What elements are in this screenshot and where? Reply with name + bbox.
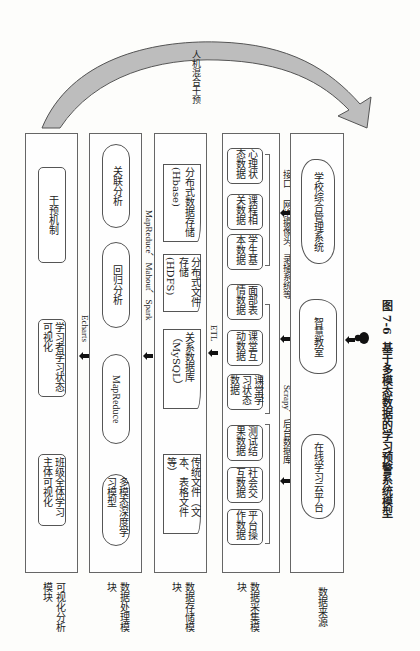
psych-state-box: 心理状态数据 bbox=[227, 148, 263, 184]
arrow-echarts bbox=[79, 353, 89, 359]
layer-label-processing: 数据处理模块 bbox=[102, 582, 130, 632]
layer-label-source: 数据来源 bbox=[300, 582, 328, 632]
arrow-scrapy bbox=[280, 478, 290, 484]
figure-number: 图 7-6 bbox=[380, 300, 393, 335]
layer-collection: 平台操作数据 社会交互数据 测试结果数据 课堂学习状态数据 课堂互动数据 面部表… bbox=[222, 133, 280, 573]
layer-storage: 传统文件（文本、表格文件等） 关系数据库（MySQL） 分布式文件存储(HDFS… bbox=[154, 133, 207, 573]
bracket-platform-group bbox=[265, 424, 270, 544]
learner-visualization-box: 学习者学习状态可视化 bbox=[38, 319, 66, 397]
classroom-interaction-box: 课堂互动数据 bbox=[227, 330, 263, 366]
hbase-doc: 分布式数据存储(Hbase) bbox=[163, 164, 201, 242]
social-interaction-box: 社会交互数据 bbox=[227, 467, 263, 503]
bracket-classroom-group bbox=[265, 304, 270, 414]
layer-label-visualization: 可视化分析模块 bbox=[38, 582, 66, 632]
feedback-arrow-label: 人机混合干预 bbox=[190, 50, 203, 104]
arrow-interface bbox=[280, 210, 290, 216]
bracket-system-group bbox=[265, 154, 270, 266]
traditional-files-doc: 传统文件（文本、表格文件等） bbox=[163, 454, 201, 534]
layer-label-collection: 数据采集模块 bbox=[232, 582, 260, 632]
school-management-system: 学校综合管理系统 bbox=[301, 159, 335, 264]
connector-etl: ETL bbox=[209, 325, 219, 342]
intervention-box: 干预机制 bbox=[38, 167, 66, 263]
facial-expression-box: 面部表情数据 bbox=[227, 284, 263, 320]
regression-pill: 回归分析 bbox=[102, 242, 130, 328]
test-result-box: 测试结果数据 bbox=[227, 425, 263, 461]
mapreduce-pill: MapReduce bbox=[102, 354, 130, 444]
arrow-mapreduce bbox=[143, 353, 153, 359]
feedback-arrow bbox=[0, 0, 420, 140]
mysql-doc: 关系数据库（MySQL） bbox=[163, 329, 201, 409]
course-related-box: 课程相关数据 bbox=[227, 194, 263, 230]
layer-source: 在线学习云平台 智慧教室 学校综合管理系统 bbox=[290, 133, 344, 573]
student-basic-box: 学生基本数据 bbox=[227, 234, 263, 270]
smart-classroom: 智慧教室 bbox=[299, 299, 337, 374]
layer-visualization: 班级全体学习主体可视化 学习者学习状态可视化 干预机制 bbox=[25, 133, 78, 573]
figure-title: 基于多模态数据的学习预警系统模型 bbox=[380, 342, 393, 518]
layer-label-storage: 数据存储模块 bbox=[167, 582, 195, 632]
association-pill: 关联分析 bbox=[102, 144, 130, 228]
arrow-webcam bbox=[280, 336, 290, 342]
class-visualization-box: 班级全体学习主体可视化 bbox=[38, 454, 66, 526]
platform-operation-box: 平台操作数据 bbox=[227, 509, 263, 545]
arrow-etl bbox=[208, 350, 218, 356]
layer-processing: 多模态深度学习模型 MapReduce 回归分析 关联分析 bbox=[89, 133, 142, 573]
classroom-state-box: 课堂学习状态数据 bbox=[227, 374, 263, 410]
online-cloud-platform: 在线学习云平台 bbox=[301, 434, 335, 519]
figure-caption: 图 7-6 基于多模态数据的学习预警系统模型 bbox=[378, 300, 394, 518]
person-icon bbox=[354, 326, 370, 350]
multimodal-model-pill: 多模态深度学习模型 bbox=[102, 474, 130, 546]
hdfs-doc: 分布式文件存储(HDFS) bbox=[163, 254, 201, 312]
